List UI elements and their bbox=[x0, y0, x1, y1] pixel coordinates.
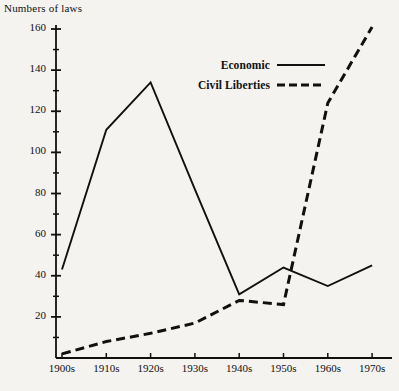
legend-sample-solid-line bbox=[277, 60, 325, 70]
y-tick-label-40: 40 bbox=[12, 268, 46, 280]
y-tick-label-60: 60 bbox=[12, 227, 46, 239]
y-tick-label-100: 100 bbox=[12, 144, 46, 156]
x-tick-label-1970s: 1970s bbox=[349, 362, 395, 374]
chart-root: Numbers of laws 20406080100120140160 190… bbox=[0, 0, 399, 391]
y-tick-label-20: 20 bbox=[12, 309, 46, 321]
y-tick-label-140: 140 bbox=[12, 62, 46, 74]
x-tick-label-1900s: 1900s bbox=[39, 362, 85, 374]
x-tick-label-1950s: 1950s bbox=[261, 362, 307, 374]
legend-label-civil-liberties: Civil Liberties bbox=[198, 79, 270, 91]
x-tick-label-1920s: 1920s bbox=[128, 362, 174, 374]
legend-sample-dashed-line bbox=[277, 80, 325, 90]
x-tick-label-1930s: 1930s bbox=[172, 362, 218, 374]
y-tick-label-120: 120 bbox=[12, 103, 46, 115]
y-tick-label-80: 80 bbox=[12, 186, 46, 198]
x-tick-label-1940s: 1940s bbox=[216, 362, 262, 374]
x-tick-label-1910s: 1910s bbox=[83, 362, 129, 374]
legend-item-civil-liberties: Civil Liberties bbox=[150, 75, 325, 95]
legend-label-economic: Economic bbox=[221, 59, 270, 71]
x-tick-label-1960s: 1960s bbox=[305, 362, 351, 374]
chart-legend: Economic Civil Liberties bbox=[150, 55, 325, 95]
y-tick-label-160: 160 bbox=[12, 21, 46, 33]
legend-item-economic: Economic bbox=[150, 55, 325, 75]
